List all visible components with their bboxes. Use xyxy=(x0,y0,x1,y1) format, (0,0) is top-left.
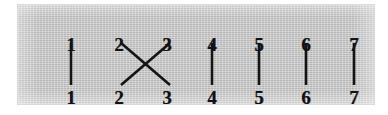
bottom-endpoint-label-5: 5 xyxy=(249,88,269,107)
bottom-endpoint-label-1: 1 xyxy=(61,88,81,107)
top-endpoint-label-1: 1 xyxy=(61,35,81,54)
diagram-panel: 1234567 1234567 xyxy=(18,5,374,104)
bottom-endpoint-label-3: 3 xyxy=(157,88,177,107)
bottom-endpoint-label-4: 4 xyxy=(202,88,222,107)
top-endpoint-label-2: 2 xyxy=(109,35,129,54)
top-endpoint-label-6: 6 xyxy=(296,35,316,54)
bottom-endpoint-label-2: 2 xyxy=(109,88,129,107)
figure-root: 1234567 1234567 xyxy=(0,0,388,115)
top-endpoint-label-3: 3 xyxy=(157,35,177,54)
top-endpoint-label-7: 7 xyxy=(344,35,364,54)
top-endpoint-label-4: 4 xyxy=(202,35,222,54)
bottom-endpoint-label-6: 6 xyxy=(296,88,316,107)
bottom-endpoint-label-7: 7 xyxy=(344,88,364,107)
top-endpoint-label-5: 5 xyxy=(249,35,269,54)
